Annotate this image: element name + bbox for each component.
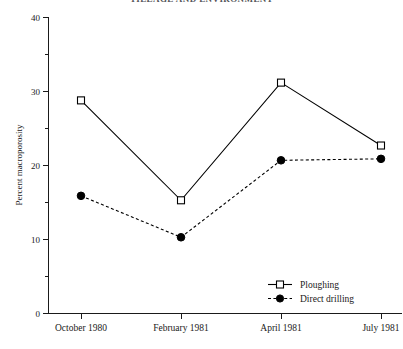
legend-label-ploughing: Ploughing: [300, 280, 339, 290]
series-layer: [77, 79, 385, 241]
data-point[interactable]: [277, 157, 285, 165]
y-axis-title: Percent macroporosity: [14, 124, 24, 206]
series-direct-drilling: [77, 155, 385, 241]
x-tick-label-april-1981: April 1981: [260, 323, 302, 333]
y-axis-major-ticks: [43, 18, 49, 314]
data-point[interactable]: [178, 197, 185, 204]
data-point[interactable]: [77, 192, 85, 200]
x-tick-label-october-1980: October 1980: [55, 323, 107, 333]
series-line: [81, 159, 381, 237]
line-chart-plot: 40 30 20 10 0 Percent macroporosity Octo…: [0, 0, 403, 349]
data-point[interactable]: [378, 142, 385, 149]
legend-item-ploughing[interactable]: Ploughing: [268, 280, 339, 290]
y-tick-label-40: 40: [31, 13, 41, 23]
x-tick-label-july-1981: July 1981: [362, 323, 399, 333]
data-point[interactable]: [177, 233, 185, 241]
y-tick-label-0: 0: [36, 309, 41, 319]
data-point[interactable]: [377, 155, 385, 163]
x-tick-label-february-1981: February 1981: [153, 323, 209, 333]
chart-legend: Ploughing Direct drilling: [268, 280, 354, 304]
chart-figure: TILLAGE AND ENVIRONMENT 40 30 20 10 0 Pe…: [0, 0, 403, 349]
data-point[interactable]: [278, 79, 285, 86]
x-axis-ticks: [82, 314, 382, 320]
y-tick-label-20: 20: [31, 161, 41, 171]
y-tick-label-30: 30: [31, 87, 41, 97]
data-point[interactable]: [78, 97, 85, 104]
legend-label-direct-drilling: Direct drilling: [300, 294, 354, 304]
legend-item-direct-drilling[interactable]: Direct drilling: [268, 294, 354, 304]
series-ploughing: [78, 79, 385, 204]
series-line: [81, 83, 381, 201]
y-tick-label-10: 10: [31, 235, 41, 245]
